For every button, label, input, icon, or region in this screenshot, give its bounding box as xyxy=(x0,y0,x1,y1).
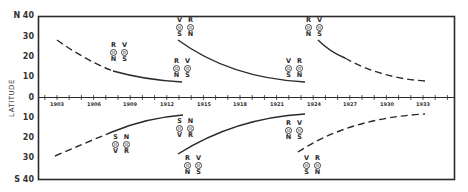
y-label-0: 0 xyxy=(4,94,34,102)
polarity-group: RV NS xyxy=(284,120,304,142)
y-label-n20: 20 xyxy=(4,53,34,61)
y-label-s20: 20 xyxy=(4,134,34,142)
x-label-1933: 1933 xyxy=(413,101,433,107)
chart-canvas xyxy=(0,0,468,192)
x-label-1909: 1909 xyxy=(120,101,140,107)
polarity-group: VR SN xyxy=(175,17,195,39)
polarity-group: RV NS xyxy=(109,42,129,64)
y-label-n40: N 40 xyxy=(4,12,34,20)
x-label-1930: 1930 xyxy=(377,101,397,107)
polarity-group: RV NS xyxy=(183,155,203,177)
y-label-s30: 30 xyxy=(4,154,34,162)
south-cycle-1-dashed xyxy=(55,132,112,156)
south-cycle-3 xyxy=(298,114,425,152)
polarity-group: VR SN xyxy=(284,58,304,80)
x-label-1927: 1927 xyxy=(340,101,360,107)
y-label-s40: S 40 xyxy=(4,176,34,184)
polarity-group: SN VR xyxy=(111,134,131,156)
x-label-1912: 1912 xyxy=(157,101,177,107)
north-cycle-3-dashed xyxy=(345,58,425,81)
x-label-1915: 1915 xyxy=(194,101,214,107)
polarity-group: RV NS xyxy=(304,17,324,39)
y-label-s10: 10 xyxy=(4,114,34,122)
x-label-1918: 1918 xyxy=(230,101,250,107)
x-label-1924: 1924 xyxy=(304,101,324,107)
polarity-group: VR SN xyxy=(302,155,322,177)
polarity-group: RV NS xyxy=(172,58,192,80)
x-label-1903: 1903 xyxy=(47,101,67,107)
north-cycle-3-solid xyxy=(318,40,345,58)
north-cycle-1-dashed xyxy=(57,40,113,71)
south-cycle-1-solid xyxy=(112,115,183,132)
x-label-1921: 1921 xyxy=(267,101,287,107)
y-label-n30: 30 xyxy=(4,33,34,41)
x-label-1906: 1906 xyxy=(84,101,104,107)
y-label-n10: 10 xyxy=(4,73,34,81)
polarity-group: SN VR xyxy=(175,118,195,140)
